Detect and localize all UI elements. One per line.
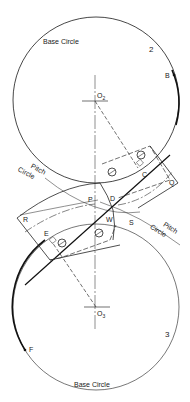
o3-label: O3 — [97, 310, 105, 319]
base-circle-label-top: Base Circle — [43, 38, 79, 45]
arc-b-highlight — [172, 70, 179, 125]
bolt-icon — [137, 151, 145, 159]
point-b-label: B — [165, 72, 170, 79]
base-circle-gear-2 — [13, 17, 179, 183]
point-f-label: F — [29, 346, 33, 353]
line-of-action — [25, 155, 170, 285]
point-d-label: D — [110, 195, 115, 202]
o2-label: O2 — [97, 92, 105, 101]
base-circle-label-bottom: Base Circle — [74, 381, 110, 388]
right-angle-c — [136, 159, 143, 166]
point-e-label: E — [44, 230, 49, 237]
lower-plate-dashed — [50, 225, 116, 260]
bolt-icon — [108, 168, 116, 176]
bolt-icon — [95, 229, 103, 237]
point-r-label: R — [23, 216, 28, 223]
gear-diagram: Base Circle 2 B O2 C Q Pitch Circle P D … — [0, 0, 190, 402]
point-b-marker — [173, 74, 176, 77]
point-p-label: P — [88, 196, 93, 203]
bolt-icon — [58, 239, 66, 247]
radius-o2-to-c — [95, 101, 138, 168]
point-q-label: Q — [169, 179, 175, 187]
point-f-marker — [24, 349, 27, 352]
point-s-label: S — [129, 219, 134, 226]
point-w-label: W — [106, 216, 113, 223]
pitch-circle-label-lower: Pitch Circle — [149, 215, 179, 242]
gear-number-2: 2 — [149, 45, 154, 54]
gear-number-3: 3 — [165, 330, 170, 339]
lower-arc-r — [25, 204, 95, 232]
pitch-circle-label-upper: Pitch Circle — [17, 158, 47, 184]
arc-f-highlight — [12, 240, 45, 350]
point-c-label: C — [142, 171, 147, 178]
